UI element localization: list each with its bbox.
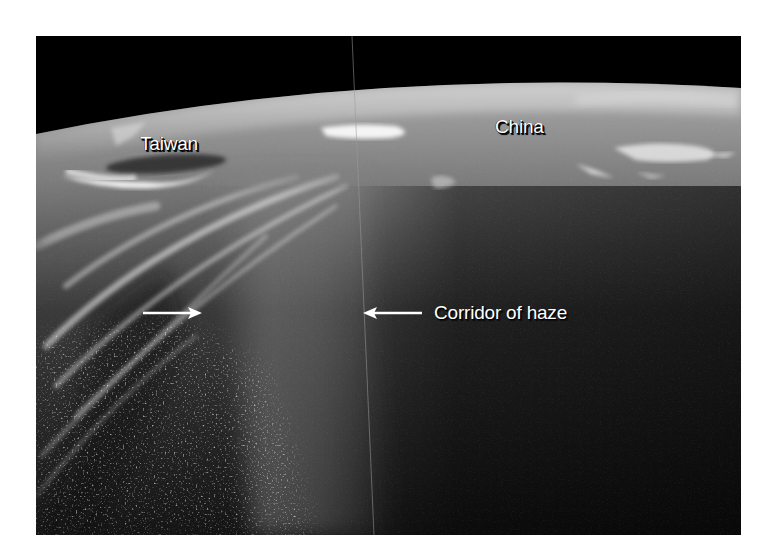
label-corridor-of-haze: Corridor of haze xyxy=(434,303,567,322)
label-taiwan: Taiwan xyxy=(140,134,198,153)
arrow-left-icon xyxy=(361,306,423,320)
arrow-right-icon xyxy=(142,306,204,320)
earth-scene xyxy=(36,36,741,535)
label-china: China xyxy=(495,117,544,136)
earth-photo: Taiwan China Corridor of haze xyxy=(36,36,741,535)
